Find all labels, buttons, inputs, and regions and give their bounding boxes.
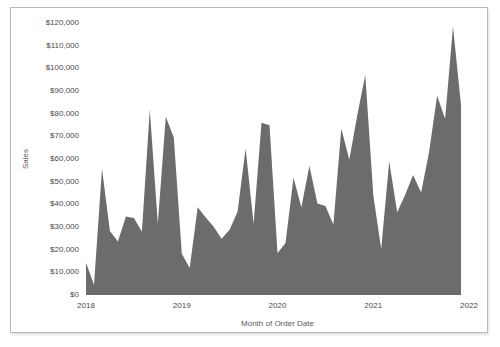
chart-panel: Sales $0$10,000$20,000$30,000$40,000$50,… [10,7,488,333]
x-axis-title: Month of Order Date [86,319,469,329]
x-tick-label: 2022 [449,301,489,311]
x-tick-label: 2021 [353,301,393,311]
x-tick-label: 2020 [258,301,298,311]
x-tick-label: 2018 [66,301,106,311]
x-tick-label: 2019 [162,301,202,311]
x-axis: 20182019202020212022 [11,8,487,332]
